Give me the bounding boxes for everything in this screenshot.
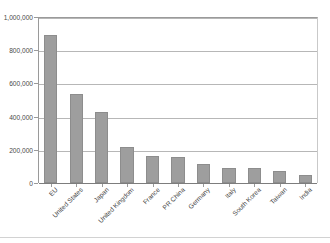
y-tick-label-1000000: 1,000,000 bbox=[0, 14, 33, 21]
bar bbox=[120, 147, 133, 183]
y-tick-label-0: 0 bbox=[0, 180, 33, 187]
y-tick-label-800000: 800,000 bbox=[0, 47, 33, 54]
x-tick-label: EU bbox=[47, 186, 59, 198]
y-tick-label-600000: 600,000 bbox=[0, 80, 33, 87]
bar bbox=[222, 168, 235, 183]
chart-figure: 1,000,000 800,000 600,000 400,000 200,00… bbox=[0, 0, 330, 243]
bar bbox=[95, 112, 108, 183]
x-tick-mark bbox=[153, 184, 154, 187]
bar bbox=[44, 35, 57, 183]
bar bbox=[171, 157, 184, 183]
footer-divider bbox=[0, 237, 330, 238]
bar bbox=[299, 175, 312, 183]
x-tick-label: India bbox=[298, 186, 314, 202]
bar bbox=[273, 171, 286, 183]
y-tick-label-200000: 200,000 bbox=[0, 146, 33, 153]
x-tick-label: PR China bbox=[161, 186, 187, 212]
x-tick-label: Taiwan bbox=[268, 186, 288, 206]
bar-series bbox=[38, 17, 318, 183]
bar bbox=[70, 94, 83, 183]
x-tick-label: Japan bbox=[92, 186, 110, 204]
bar bbox=[146, 156, 159, 183]
bar bbox=[197, 164, 210, 183]
y-tick-label-400000: 400,000 bbox=[0, 113, 33, 120]
x-tick-label: Germany bbox=[187, 186, 212, 211]
x-tick-label: Italy bbox=[223, 186, 237, 200]
bar bbox=[248, 168, 261, 183]
x-axis-tick-labels: EUUnited StatesJapanUnited KingdomFrance… bbox=[38, 184, 318, 242]
x-tick-label: France bbox=[141, 186, 161, 206]
